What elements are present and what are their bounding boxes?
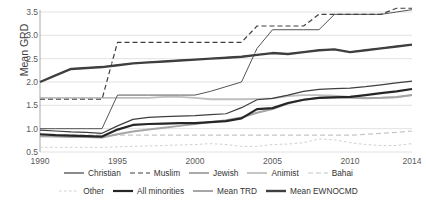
legend-label: Mean EWNOCMD xyxy=(290,186,358,196)
x-tick-label: 2000 xyxy=(175,156,215,166)
dotted-light xyxy=(59,187,79,195)
legend-label: Muslim xyxy=(154,168,180,178)
legend-label: Other xyxy=(83,186,104,196)
legend-row-1: ChristianMuslimJewishAnimistBahai xyxy=(0,168,417,178)
legend-label: Christian xyxy=(88,168,121,178)
legend-item-animist[interactable]: Animist xyxy=(247,168,298,178)
series-line-muslim xyxy=(40,8,412,99)
solid-light-thick xyxy=(193,187,213,195)
dashed-dark xyxy=(130,169,150,177)
x-tick-label: 2014 xyxy=(392,156,426,166)
series-line-christian xyxy=(40,81,412,133)
legend-item-other[interactable]: Other xyxy=(59,186,104,196)
series-line-all-minorities xyxy=(40,89,412,137)
solid-thick-black xyxy=(113,187,133,195)
legend-item-bahai[interactable]: Bahai xyxy=(308,168,353,178)
legend-label: Bahai xyxy=(332,168,353,178)
x-tick-label: 2005 xyxy=(253,156,293,166)
legend-row-2: OtherAll minoritiesMean TRDMean EWNOCMD xyxy=(0,186,417,196)
legend-item-all-minorities[interactable]: All minorities xyxy=(113,186,184,196)
x-tick-label: 2010 xyxy=(330,156,370,166)
legend-item-christian[interactable]: Christian xyxy=(64,168,121,178)
legend-label: All minorities xyxy=(137,186,184,196)
dashdot-dark-thin xyxy=(189,169,209,177)
series-line-mean-ewnocmd xyxy=(40,45,412,82)
legend-label: Mean TRD xyxy=(217,186,257,196)
series-line-mean-ewnocmd-inner xyxy=(40,43,412,80)
legend-item-mean-trd[interactable]: Mean TRD xyxy=(193,186,257,196)
solid-double-dark xyxy=(266,187,286,195)
legend-item-muslim[interactable]: Muslim xyxy=(130,168,180,178)
legend-label: Animist xyxy=(271,168,298,178)
x-tick-label: 1995 xyxy=(98,156,138,166)
legend-item-mean-ewnocmd[interactable]: Mean EWNOCMD xyxy=(266,186,358,196)
dashed-light xyxy=(308,169,328,177)
solid-thick-dark xyxy=(64,169,84,177)
series-line-other xyxy=(40,139,412,147)
series-line-mean-trd xyxy=(40,95,412,137)
legend-label: Jewish xyxy=(213,168,238,178)
series-line-jewish xyxy=(40,10,412,129)
x-tick-label: 1990 xyxy=(20,156,60,166)
solid-light xyxy=(247,169,267,177)
legend-item-jewish[interactable]: Jewish xyxy=(189,168,238,178)
